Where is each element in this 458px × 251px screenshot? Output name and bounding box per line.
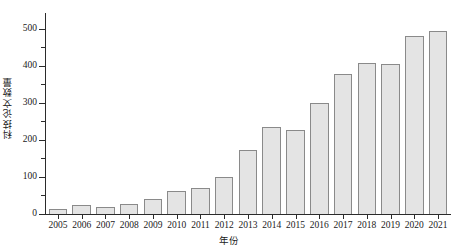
- bar: [120, 204, 139, 214]
- x-axis-tick: [248, 215, 249, 219]
- y-axis-tick: [39, 140, 45, 141]
- x-axis-tick-label: 2021: [426, 221, 450, 231]
- bar: [167, 191, 186, 214]
- x-axis-tick: [367, 215, 368, 219]
- x-axis-tick-label: 2013: [236, 221, 260, 231]
- x-axis-tick: [153, 215, 154, 219]
- x-axis-tick: [272, 215, 273, 219]
- x-axis-tick: [391, 215, 392, 219]
- x-axis-tick-label: 2015: [284, 221, 308, 231]
- bar: [405, 36, 424, 214]
- x-axis-tick: [343, 215, 344, 219]
- bar: [310, 103, 329, 214]
- x-axis-tick-label: 2019: [379, 221, 403, 231]
- x-axis-tick-label: 2020: [402, 221, 426, 231]
- x-axis-tick-label: 2005: [46, 221, 70, 231]
- bar: [381, 64, 400, 214]
- y-axis-tick: [39, 66, 45, 67]
- x-axis-tick-label: 2017: [331, 221, 355, 231]
- x-axis-tick-label: 2018: [355, 221, 379, 231]
- x-axis-tick-label: 2008: [117, 221, 141, 231]
- bar: [262, 127, 281, 214]
- bar: [334, 74, 353, 214]
- y-axis-tick-label: 0: [3, 209, 37, 219]
- y-axis-minor-tick: [41, 47, 45, 48]
- x-axis-tick-label: 2016: [307, 221, 331, 231]
- y-axis-minor-tick: [41, 84, 45, 85]
- x-axis-tick: [58, 215, 59, 219]
- x-axis-tick-label: 2014: [260, 221, 284, 231]
- x-axis-tick: [319, 215, 320, 219]
- bar: [215, 177, 234, 214]
- y-axis-minor-tick: [41, 158, 45, 159]
- bar: [191, 188, 210, 214]
- x-axis-tick-label: 2006: [70, 221, 94, 231]
- y-axis-tick: [39, 29, 45, 30]
- x-axis-tick: [414, 215, 415, 219]
- y-axis-tick: [39, 177, 45, 178]
- x-axis-tick-label: 2007: [94, 221, 118, 231]
- bar-chart: 科技论文数量 0100200300400500 2005200620072008…: [0, 0, 458, 251]
- x-axis-tick: [200, 215, 201, 219]
- x-axis-tick: [224, 215, 225, 219]
- bar: [72, 205, 91, 214]
- x-axis-tick: [296, 215, 297, 219]
- x-axis-tick-label: 2009: [141, 221, 165, 231]
- x-axis-tick: [82, 215, 83, 219]
- y-axis-tick-label: 400: [3, 61, 37, 71]
- bar: [96, 207, 115, 214]
- x-axis-tick: [438, 215, 439, 219]
- x-axis-tick: [105, 215, 106, 219]
- bar: [49, 209, 68, 214]
- bar: [358, 63, 377, 214]
- bar: [429, 31, 448, 214]
- y-axis-tick: [39, 103, 45, 104]
- x-axis-tick-label: 2011: [189, 221, 213, 231]
- y-axis-minor-tick: [41, 121, 45, 122]
- plot-area: [46, 14, 450, 214]
- y-axis-tick-label: 100: [3, 172, 37, 182]
- bar: [144, 199, 163, 214]
- bar: [286, 130, 305, 214]
- bar: [239, 150, 258, 214]
- y-axis-tick-label: 200: [3, 135, 37, 145]
- x-axis-tick-label: 2012: [212, 221, 236, 231]
- y-axis-tick-label: 300: [3, 98, 37, 108]
- y-axis-minor-tick: [41, 195, 45, 196]
- x-axis-tick-label: 2010: [165, 221, 189, 231]
- y-axis-tick-label: 500: [3, 24, 37, 34]
- y-axis-tick: [39, 214, 45, 215]
- x-axis-title: 年份: [0, 233, 458, 247]
- x-axis-tick: [177, 215, 178, 219]
- x-axis-tick: [129, 215, 130, 219]
